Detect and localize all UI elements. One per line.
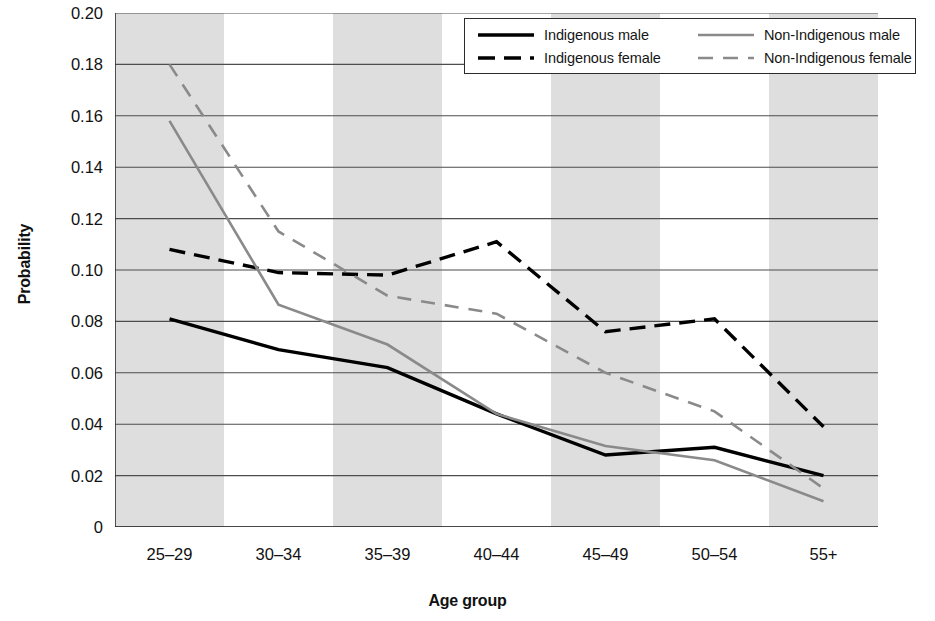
series-line-non-indigenous-male xyxy=(170,121,824,501)
x-tick-label: 50–54 xyxy=(692,545,738,564)
y-tick-label: 0.14 xyxy=(48,158,103,177)
legend-item-non-indigenous-male: Non-Indigenous male xyxy=(697,24,900,46)
x-axis-tick-labels: 25–2930–3435–3940–4445–4950–5455+ xyxy=(115,545,878,569)
legend-item-non-indigenous-female: Non-Indigenous female xyxy=(697,47,912,69)
legend-label: Non-Indigenous female xyxy=(764,50,912,66)
y-tick-label: 0.06 xyxy=(48,363,103,382)
y-tick-label: 0.04 xyxy=(48,415,103,434)
series-line-indigenous-male xyxy=(170,319,824,476)
y-tick-label: 0.20 xyxy=(48,4,103,23)
legend-label: Indigenous female xyxy=(544,50,661,66)
x-tick-label: 55+ xyxy=(810,545,838,564)
legend-key-dashed-grey xyxy=(697,51,755,65)
y-axis-title: Probability xyxy=(16,194,34,334)
chart-figure: Probability Age group 00.020.040.060.080… xyxy=(0,0,935,621)
line-chart-svg xyxy=(115,13,878,527)
y-tick-label: 0.10 xyxy=(48,261,103,280)
y-axis-tick-labels: 00.020.040.060.080.100.120.140.160.180.2… xyxy=(47,0,103,621)
plot-area xyxy=(115,13,878,527)
x-tick-label: 30–34 xyxy=(256,545,302,564)
x-axis-title: Age group xyxy=(0,592,935,610)
x-tick-label: 45–49 xyxy=(583,545,629,564)
horizontal-gridlines xyxy=(115,13,878,527)
x-tick-label: 40–44 xyxy=(474,545,520,564)
x-tick-label: 25–29 xyxy=(147,545,193,564)
y-tick-label: 0 xyxy=(48,518,103,537)
legend-key-solid-black xyxy=(477,28,535,42)
y-tick-label: 0.02 xyxy=(48,466,103,485)
series-line-non-indigenous-female xyxy=(170,64,824,488)
chart-legend: Indigenous male Indigenous female Non-In… xyxy=(464,18,916,74)
legend-item-indigenous-female: Indigenous female xyxy=(477,47,661,69)
legend-label: Indigenous male xyxy=(544,27,649,43)
y-tick-label: 0.18 xyxy=(48,55,103,74)
x-tick-label: 35–39 xyxy=(365,545,411,564)
y-tick-label: 0.12 xyxy=(48,209,103,228)
y-tick-label: 0.08 xyxy=(48,312,103,331)
legend-key-dashed-black xyxy=(477,51,535,65)
data-series-group xyxy=(170,64,824,501)
y-tick-label: 0.16 xyxy=(48,106,103,125)
legend-label: Non-Indigenous male xyxy=(764,27,900,43)
legend-item-indigenous-male: Indigenous male xyxy=(477,24,649,46)
legend-key-solid-grey xyxy=(697,28,755,42)
